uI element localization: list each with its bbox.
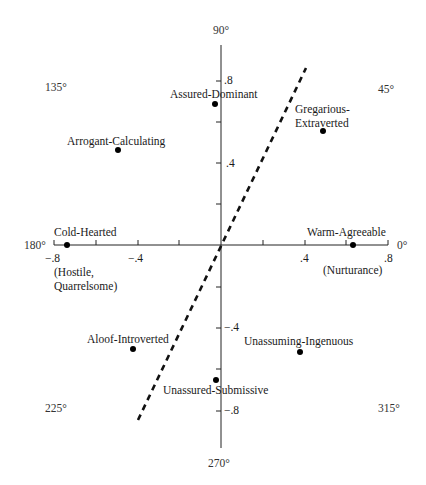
point-unassuming-ingenuous — [297, 349, 303, 355]
circumplex-chart: −.8 −.4 .4 .8 .8 .4 −.4 −.8 90° 45° 0° 3… — [0, 0, 426, 485]
angle-label-90: 90° — [213, 24, 230, 36]
label-assured-dominant: Assured-Dominant — [170, 88, 258, 100]
label-nurturance: (Nurturance) — [323, 264, 383, 277]
angle-label-315: 315° — [378, 402, 400, 414]
x-tick-label: −.8 — [45, 252, 60, 264]
point-assured-dominant — [212, 101, 218, 107]
angle-label-0: 0° — [397, 239, 408, 251]
y-tick-label: −.8 — [224, 404, 239, 416]
label-arrogant-calculating: Arrogant-Calculating — [67, 135, 166, 148]
dashed-line — [138, 68, 306, 420]
point-warm-agreeable — [350, 242, 356, 248]
y-tick-label: .8 — [224, 74, 233, 86]
angle-label-180: 180° — [24, 239, 46, 251]
label-warm-agreeable: Warm-Agreeable — [307, 226, 386, 239]
label-gregarious-2: Extraverted — [295, 117, 349, 129]
x-tick-label: −.4 — [128, 252, 143, 264]
label-unassured-submissive: Unassured-Submissive — [163, 384, 268, 396]
label-aloof-introverted: Aloof-Introverted — [87, 333, 169, 345]
angle-label-135: 135° — [45, 81, 67, 93]
point-labels: Assured-Dominant Gregarious- Extraverted… — [54, 88, 386, 396]
point-unassured-submissive — [213, 377, 219, 383]
x-tick-label: .8 — [384, 252, 393, 264]
label-hostile-2: Quarrelsome) — [54, 280, 117, 293]
point-arrogant-calculating — [115, 147, 121, 153]
chart-svg: −.8 −.4 .4 .8 .8 .4 −.4 −.8 90° 45° 0° 3… — [0, 0, 426, 485]
angle-label-225: 225° — [45, 402, 67, 414]
angle-label-45: 45° — [378, 83, 395, 95]
angle-label-270: 270° — [208, 457, 230, 469]
point-cold-hearted — [64, 242, 70, 248]
x-tick-label: .4 — [300, 252, 309, 264]
point-aloof-introverted — [130, 346, 136, 352]
label-gregarious-1: Gregarious- — [295, 103, 350, 116]
y-tick-label: −.4 — [224, 321, 239, 333]
label-hostile-1: (Hostile, — [54, 266, 94, 279]
y-tick-label: .4 — [226, 157, 235, 169]
label-unassuming-ingenuous: Unassuming-Ingenuous — [244, 335, 354, 348]
label-cold-hearted: Cold-Hearted — [54, 226, 117, 238]
